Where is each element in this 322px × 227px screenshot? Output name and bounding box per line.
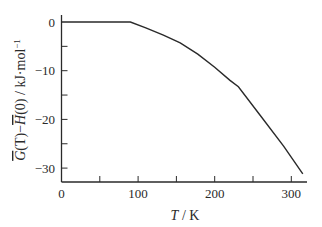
x-axis-title: T / K [171, 208, 200, 223]
chart: 0100200300 0−10−20−30 T / K G(T)−H(0) / … [0, 0, 322, 227]
y-tick-label: −30 [35, 161, 55, 176]
axes [62, 15, 308, 182]
y-axis-minus: − [13, 125, 28, 133]
svg-text:G(T)−H(0) / kJ·mol−1: G(T)−H(0) / kJ·mol−1 [12, 39, 29, 161]
x-ticks: 0100200300 [58, 176, 301, 201]
x-tick-label: 300 [282, 186, 302, 201]
y-tick-label: −10 [35, 63, 55, 78]
y-axis-g: G [13, 151, 28, 161]
y-axis-title: G(T)−H(0) / kJ·mol−1 [12, 39, 29, 161]
x-tick-label: 200 [205, 186, 225, 201]
y-axis-t2: (0) / kJ·mol [13, 49, 29, 115]
x-tick-label: 0 [58, 186, 65, 201]
y-ticks: 0−10−20−30 [35, 15, 68, 176]
data-line [62, 22, 303, 174]
y-axis-sup: −1 [12, 39, 22, 49]
y-tick-label: 0 [49, 15, 56, 30]
x-axis-unit: / K [178, 208, 199, 223]
y-axis-t1: (T) [13, 133, 29, 151]
y-tick-label: −20 [35, 112, 55, 127]
x-tick-label: 100 [128, 186, 148, 201]
